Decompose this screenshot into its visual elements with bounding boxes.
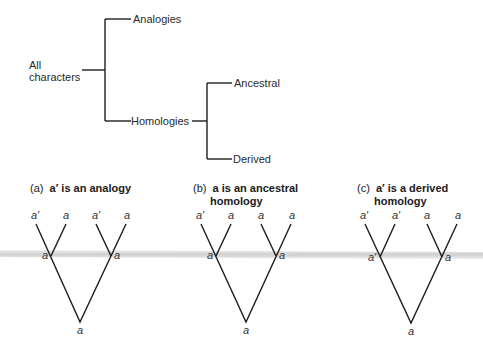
panel-b-tip-1: a′	[196, 209, 205, 221]
panel-c-title: (c) a′ is a derived	[357, 182, 448, 194]
panel-b-title-line1: a is an ancestral	[213, 182, 299, 194]
panel-a-title-line1: a′ is an analogy	[50, 182, 132, 194]
panel-c-tip-4: a	[455, 209, 461, 221]
panel-c-node-left: a′	[368, 251, 377, 263]
panel-b-node-right: a	[279, 249, 285, 261]
panel-c-title-line2: homology	[374, 195, 427, 207]
label-derived: Derived	[233, 153, 271, 165]
panel-a-tip-1: a′	[31, 209, 40, 221]
panel-b-node-left: a	[207, 249, 213, 261]
panel-b-root: a	[243, 324, 249, 336]
panel-b-tip-3: a	[258, 209, 264, 221]
panel-b-title-line2: homology	[210, 195, 263, 207]
panel-a-node-left: a	[42, 249, 48, 261]
panel-a-prefix: (a)	[30, 182, 43, 194]
panel-b-outer-branches	[201, 224, 291, 322]
panel-c-node-right: a	[445, 251, 451, 263]
panel-a-title: (a) a′ is an analogy	[30, 182, 132, 194]
character-diagram: All characters Analogies Homologies Ance…	[0, 0, 483, 350]
panel-c-tip-3: a	[424, 209, 430, 221]
panel-c-title-line1: a′ is a derived	[376, 182, 448, 194]
panel-c-tip-2: a′	[392, 209, 401, 221]
root-label-all: All	[29, 59, 41, 71]
label-homologies: Homologies	[131, 115, 190, 127]
panel-a-root: a	[77, 324, 83, 336]
label-ancestral: Ancestral	[234, 77, 280, 89]
panel-c-outer-branches	[365, 224, 457, 323]
panel-a-tip-2: a	[63, 209, 69, 221]
scan-band	[0, 250, 483, 259]
root-label-characters: characters	[29, 71, 81, 83]
panel-a-tip-4: a	[124, 209, 130, 221]
panel-b: (b) a is an ancestral homology a′ a a a …	[193, 182, 298, 336]
panel-b-prefix: (b)	[193, 182, 206, 194]
label-analogies: Analogies	[133, 13, 182, 25]
panel-a: (a) a′ is an analogy a′ a a′ a a a a	[30, 182, 132, 336]
panel-c-tip-1: a′	[360, 209, 369, 221]
panel-b-tip-4: a	[289, 209, 295, 221]
panel-b-title: (b) a is an ancestral	[193, 182, 298, 194]
classification-tree: All characters Analogies Homologies Ance…	[29, 13, 280, 165]
panel-a-node-right: a	[114, 249, 120, 261]
panel-c-prefix: (c)	[357, 182, 370, 194]
panel-b-tip-2: a	[228, 209, 234, 221]
panel-c-root: a	[408, 325, 414, 337]
panel-c: (c) a′ is a derived homology a′ a′ a a a…	[357, 182, 461, 337]
panel-a-outer-branches	[36, 224, 126, 322]
panel-a-tip-3: a′	[92, 209, 101, 221]
